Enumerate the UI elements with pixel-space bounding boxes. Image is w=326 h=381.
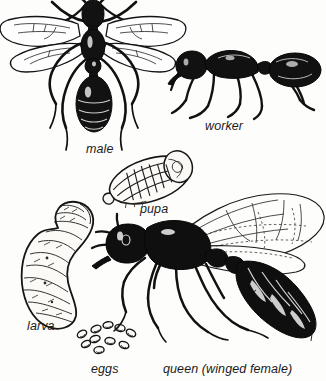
label-eggs: eggs [91,362,119,376]
label-pupa: pupa [140,202,168,216]
label-larva: larva [27,319,55,333]
label-worker: worker [205,119,243,133]
label-queen: queen (winged female) [163,362,292,376]
ant-castes-figure: male worker pupa larva eggs queen (winge… [0,0,326,381]
label-male: male [86,142,114,156]
